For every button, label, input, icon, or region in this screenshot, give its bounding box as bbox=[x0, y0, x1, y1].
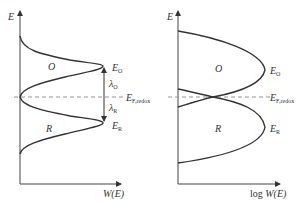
left-fermi-label: EF,redox bbox=[126, 93, 150, 104]
left-oxidized-curve bbox=[20, 36, 103, 97]
right-region-o: O bbox=[215, 64, 222, 74]
left-region-r: R bbox=[46, 124, 52, 134]
left-panel bbox=[14, 11, 124, 184]
left-y-axis-label: E bbox=[8, 12, 14, 22]
right-fermi-label: EF,redox bbox=[270, 93, 294, 104]
right-x-axis-label: log W(E) bbox=[250, 189, 286, 199]
left-level-eo: EO bbox=[112, 63, 122, 74]
lambda-o-label: λO bbox=[109, 79, 118, 90]
diagram-canvas bbox=[0, 0, 303, 206]
right-panel bbox=[168, 11, 280, 184]
right-y-axis-label: E bbox=[167, 12, 173, 22]
right-reduced-curve bbox=[178, 89, 265, 163]
left-reduced-curve bbox=[20, 97, 103, 154]
right-level-eo: EO bbox=[270, 66, 280, 77]
left-level-er: ER bbox=[112, 121, 122, 132]
left-x-axis-label: W(E) bbox=[103, 189, 124, 199]
lambda-r-label: λR bbox=[109, 103, 117, 114]
left-region-o: O bbox=[48, 62, 55, 72]
right-level-er: ER bbox=[270, 124, 280, 135]
right-region-r: R bbox=[215, 124, 221, 134]
